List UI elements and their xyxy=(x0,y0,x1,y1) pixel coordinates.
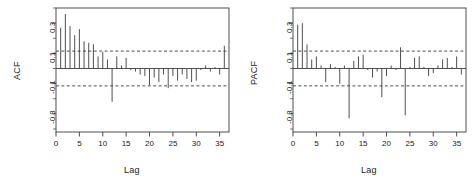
pacf-plot-canvas xyxy=(237,0,473,187)
acf-x-tick-label: 30 xyxy=(186,139,206,148)
acf-pacf-figure: ACF Lag -0.3-0.10.10.305101520253035 PAC… xyxy=(0,0,473,187)
acf-x-tick-label: 0 xyxy=(46,139,66,148)
acf-bars xyxy=(61,14,225,102)
acf-plot-canvas xyxy=(0,0,236,187)
pacf-y-tick-label: -0.1 xyxy=(285,80,294,94)
acf-y-tick-label: 0.3 xyxy=(48,22,57,33)
pacf-x-tick-label: 15 xyxy=(353,139,373,148)
acf-x-tick-label: 15 xyxy=(116,139,136,148)
acf-y-axis-title: ACF xyxy=(12,61,22,80)
pacf-panel: PACF Lag -0.3-0.10.10.305101520253035 xyxy=(237,0,473,187)
pacf-x-tick-label: 30 xyxy=(423,139,443,148)
acf-y-tick-label: -0.3 xyxy=(48,110,57,124)
pacf-x-tick-label: 0 xyxy=(283,139,303,148)
pacf-x-tick-label: 5 xyxy=(306,139,326,148)
acf-x-tick-label: 25 xyxy=(163,139,183,148)
pacf-plot-frame xyxy=(293,8,466,132)
acf-y-tick-label: -0.1 xyxy=(48,80,57,94)
pacf-y-tick-label: 0.1 xyxy=(285,52,294,63)
acf-x-tick-label: 5 xyxy=(69,139,89,148)
pacf-y-tick-label: 0.3 xyxy=(285,22,294,33)
acf-x-tick-label: 20 xyxy=(140,139,160,148)
acf-y-tick-label: 0.1 xyxy=(48,52,57,63)
acf-x-tick-label: 10 xyxy=(93,139,113,148)
acf-x-axis-title: Lag xyxy=(124,165,140,175)
pacf-bars xyxy=(298,23,462,118)
pacf-x-axis-title: Lag xyxy=(361,165,377,175)
acf-x-tick-label: 35 xyxy=(210,139,230,148)
pacf-x-tick-label: 35 xyxy=(447,139,467,148)
acf-plot-frame xyxy=(56,8,229,132)
acf-panel: ACF Lag -0.3-0.10.10.305101520253035 xyxy=(0,0,236,187)
pacf-x-tick-label: 10 xyxy=(330,139,350,148)
pacf-x-tick-label: 20 xyxy=(377,139,397,148)
pacf-y-tick-label: -0.3 xyxy=(285,110,294,124)
pacf-y-axis-title: PACF xyxy=(249,61,259,85)
pacf-x-tick-label: 25 xyxy=(400,139,420,148)
